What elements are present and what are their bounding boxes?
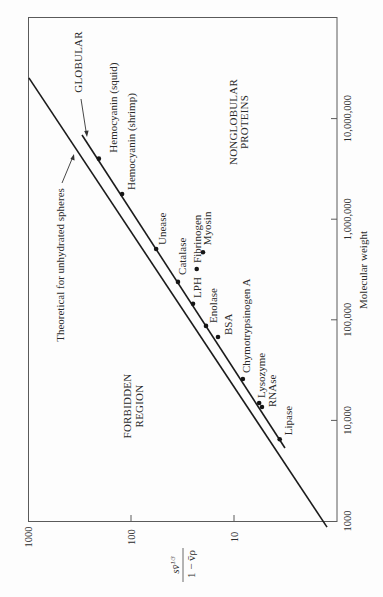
globular-arrow-icon xyxy=(81,99,89,137)
data-point-label: LPH xyxy=(191,277,203,298)
data-point-marker xyxy=(191,302,196,307)
data-point-marker xyxy=(194,267,199,272)
data-point-label: Myosin xyxy=(201,211,213,245)
data-point-marker xyxy=(176,280,181,285)
data-point-marker xyxy=(201,250,206,255)
data-point: Catalase xyxy=(176,238,188,285)
y-axis-title-denominator: 1 − v̄ρ xyxy=(185,549,197,578)
data-point-label: BSA xyxy=(222,314,234,335)
data-point-label: Enolase xyxy=(207,288,219,323)
data-point-marker xyxy=(97,156,102,161)
y-tick-label: 1000 xyxy=(23,527,34,548)
theoretical-line-label: Theoretical for unhydrated spheres xyxy=(54,188,66,342)
y-axis-title-numerator: sv̄1/3 xyxy=(169,556,181,574)
data-point-marker xyxy=(257,401,262,406)
sedimentation-vs-molecular-weight-chart: 100010,000100,0001,000,00010,000,0001010… xyxy=(0,0,383,597)
globular-line xyxy=(82,135,285,448)
data-point: Hemocyanin (squid) xyxy=(97,62,120,161)
axis-ticks: 100010,000100,0001,000,00010,000,0001010… xyxy=(23,95,353,548)
forbidden-label-line2: REGION xyxy=(133,385,145,428)
x-tick-label: 100,000 xyxy=(342,303,353,337)
data-point-marker xyxy=(241,377,246,382)
data-point: Enolase xyxy=(204,288,219,328)
x-tick-label: 10,000 xyxy=(342,406,353,435)
x-tick-label: 10,000,000 xyxy=(342,95,353,142)
data-point-marker xyxy=(154,247,159,252)
data-point: LPH xyxy=(191,277,203,306)
fit-lines xyxy=(29,78,327,527)
data-point-label: Unease xyxy=(156,213,168,245)
data-point-marker xyxy=(216,335,221,340)
data-point-marker xyxy=(120,192,125,197)
globular-label: GLOBULAR xyxy=(72,31,84,93)
data-point-label: Catalase xyxy=(176,238,188,275)
figure-page: 100010,000100,0001,000,00010,000,0001010… xyxy=(0,0,383,597)
nonglobular-label-line2: PROTEINS xyxy=(238,95,250,149)
data-point: Unease xyxy=(154,213,168,252)
y-tick-label: 10 xyxy=(229,532,240,543)
x-tick-label: 1,000,000 xyxy=(342,198,353,240)
x-axis-title: Molecular weight xyxy=(357,231,369,309)
data-point: Chymotrypsinogen A xyxy=(240,279,252,382)
data-point-label: Hemocyanin (shrimp) xyxy=(125,93,138,190)
theoretical-arrow-icon xyxy=(62,154,75,183)
x-tick-label: 1000 xyxy=(342,511,353,532)
data-point: Lipase xyxy=(277,406,293,442)
data-point-label: Chymotrypsinogen A xyxy=(240,279,252,373)
theoretical-spheres-line xyxy=(29,78,327,527)
forbidden-label-line1: FORBIDDEN xyxy=(121,374,133,439)
data-point-label: RNAse xyxy=(266,374,278,407)
y-tick-label: 100 xyxy=(126,529,137,545)
data-point-marker xyxy=(260,405,265,410)
data-point-label: Lipase xyxy=(282,406,294,435)
y-axis-title: sv̄1/3 1 − v̄ρ xyxy=(169,548,197,582)
data-point-marker xyxy=(204,324,209,329)
data-point: Hemocyanin (shrimp) xyxy=(120,93,138,196)
data-point-label: Hemocyanin (squid) xyxy=(107,62,120,152)
data-point-marker xyxy=(277,437,282,442)
